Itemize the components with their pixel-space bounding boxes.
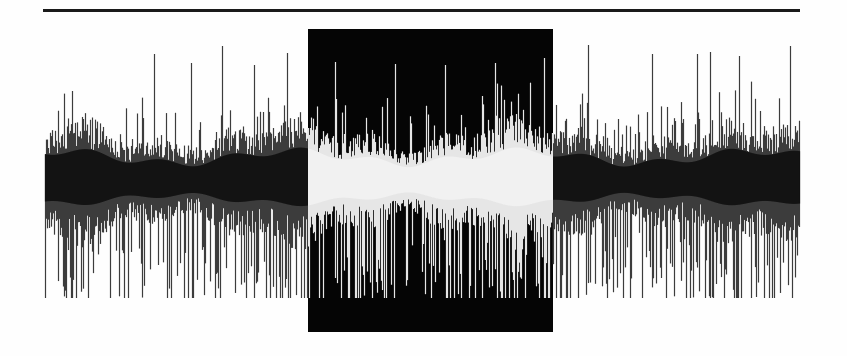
- waveform-editor[interactable]: [0, 0, 847, 356]
- selection-end-handle[interactable]: [550, 29, 556, 332]
- selection-region[interactable]: [308, 29, 553, 332]
- selection-start-handle[interactable]: [305, 29, 311, 332]
